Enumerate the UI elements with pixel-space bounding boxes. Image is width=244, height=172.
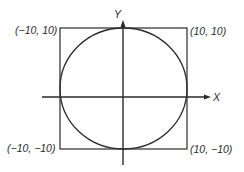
y-axis-arrow-icon xyxy=(121,20,126,27)
x-axis-label: X xyxy=(213,92,220,103)
x-axis-arrow-icon xyxy=(204,95,211,100)
corner-label-bottom-left: (−10, −10) xyxy=(7,143,55,154)
corner-label-top-right: (10, 10) xyxy=(190,26,226,37)
corner-label-bottom-right: (10, −10) xyxy=(190,144,232,155)
corner-label-top-left: (−10, 10) xyxy=(15,25,57,36)
y-axis-label: Y xyxy=(114,9,121,20)
